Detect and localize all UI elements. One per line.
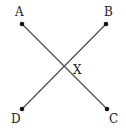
label-x: X [73, 63, 82, 77]
point-a [20, 22, 25, 27]
label-c: C [109, 112, 118, 126]
point-b [104, 22, 109, 27]
label-b: B [104, 5, 113, 19]
label-d: D [11, 112, 21, 126]
label-a: A [14, 5, 24, 19]
point-d [20, 107, 25, 112]
point-c [105, 107, 110, 112]
crossing-lines-diagram: A B C D X [0, 0, 126, 131]
